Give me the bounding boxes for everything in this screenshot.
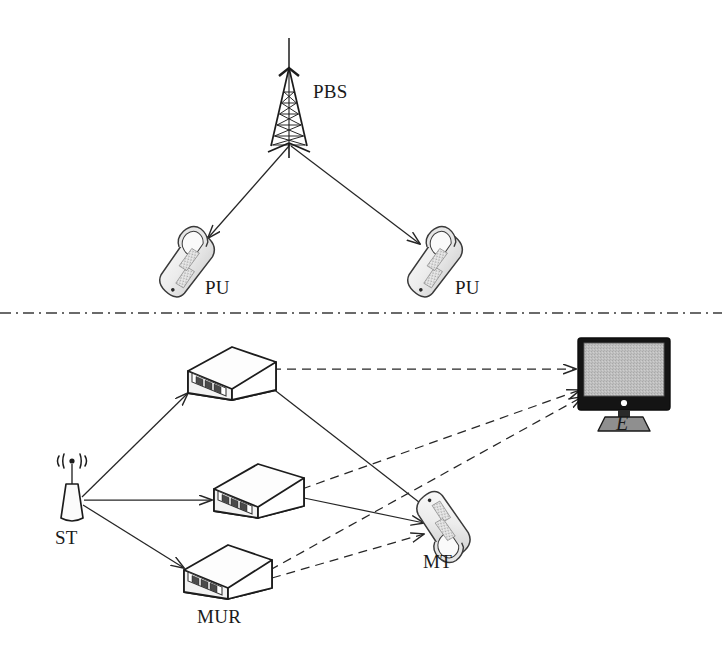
label-eavesdropper: E — [616, 412, 629, 435]
label-pbs: PBS — [313, 81, 348, 103]
tower-icon — [268, 38, 310, 158]
relay-box-icon-bottom — [184, 545, 272, 599]
antenna-icon-st — [58, 454, 87, 521]
label-pu-right: PU — [455, 277, 480, 299]
edge-relay-bot-to-mt — [272, 534, 424, 578]
network-diagram-figure: PBS PU PU ST MUR MT E — [0, 0, 722, 664]
edge-st-to-relay-top — [82, 393, 188, 497]
relay-box-icon-middle — [214, 464, 304, 518]
label-mur: MUR — [197, 606, 241, 628]
edge-pbs-to-pu-left — [208, 146, 289, 238]
edge-st-to-relay-bot — [83, 505, 184, 568]
edge-group-primary — [208, 146, 420, 244]
label-pu-left: PU — [205, 277, 230, 299]
relay-box-icon-top — [188, 347, 276, 400]
edge-relay-mid-to-eve — [302, 390, 580, 489]
edge-group-relays-eve — [270, 369, 582, 570]
label-st: ST — [55, 527, 78, 549]
edge-relay-mid-to-mt — [304, 498, 424, 523]
label-mt: MT — [423, 551, 452, 573]
edge-pbs-to-pu-right — [291, 146, 420, 244]
edge-group-st-relays — [82, 393, 212, 568]
diagram-canvas — [0, 0, 722, 664]
